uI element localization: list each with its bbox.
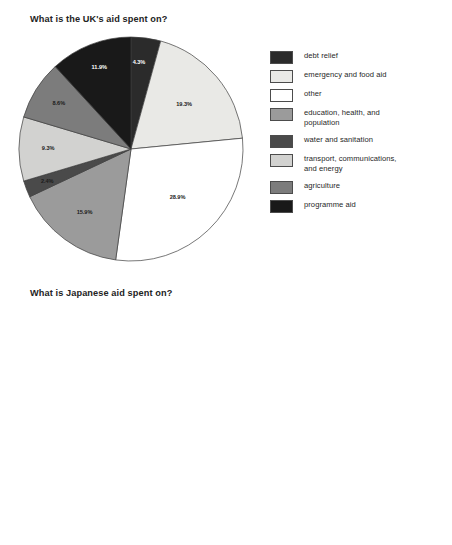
- legend-row[interactable]: other: [270, 88, 450, 104]
- uk-pie-svg: 4.3%19.3%28.9%15.9%2.4%9.3%8.6%11.9%: [18, 36, 244, 262]
- legend-row[interactable]: transport, communications, and energy: [270, 153, 450, 177]
- legend-label-other: other: [304, 88, 322, 99]
- legend-swatch-agriculture: [270, 181, 293, 194]
- legend-label-emergency: emergency and food aid: [304, 69, 387, 80]
- legend-swatch-emergency: [270, 70, 293, 83]
- uk-chart-title: What is the UK's aid spent on?: [30, 14, 167, 24]
- uk-chart-block: What is the UK's aid spent on? 4.3%19.3%…: [0, 0, 452, 272]
- japan-chart-title: What is Japanese aid spent on?: [30, 288, 172, 298]
- legend-label-debt_relief: debt relief: [304, 50, 338, 61]
- legend-swatch-programme: [270, 200, 293, 213]
- legend-swatch-other: [270, 89, 293, 102]
- legend-swatch-debt_relief: [270, 51, 293, 64]
- legend-swatch-water: [270, 135, 293, 148]
- legend-label-education: education, health, and population: [304, 107, 380, 127]
- legend-label-programme: programme aid: [304, 199, 356, 210]
- pie-label-programme: 11.9%: [92, 64, 107, 70]
- legend-label-transport: transport, communications, and energy: [304, 153, 396, 173]
- legend-row[interactable]: programme aid: [270, 199, 450, 215]
- legend-row[interactable]: emergency and food aid: [270, 69, 450, 85]
- pie-label-education: 15.9%: [77, 209, 93, 215]
- pie-label-other: 28.9%: [170, 194, 186, 200]
- legend-swatch-education: [270, 108, 293, 121]
- legend-row[interactable]: debt relief: [270, 50, 450, 66]
- pie-label-emergency: 19.3%: [176, 101, 192, 107]
- pie-label-transport: 9.3%: [42, 145, 55, 151]
- legend-swatch-transport: [270, 154, 293, 167]
- pie-label-agriculture: 8.6%: [53, 100, 66, 106]
- japan-chart-block: What is Japanese aid spent on? 28.4%10.7…: [0, 272, 452, 545]
- pie-label-debt_relief: 4.3%: [133, 59, 146, 65]
- legend-label-agriculture: agriculture: [304, 180, 340, 191]
- legend-row[interactable]: education, health, and population: [270, 107, 450, 131]
- legend-row[interactable]: water and sanitation: [270, 134, 450, 150]
- uk-pie-chart: 4.3%19.3%28.9%15.9%2.4%9.3%8.6%11.9%: [18, 36, 244, 262]
- legend-label-water: water and sanitation: [304, 134, 373, 145]
- uk-legend: debt reliefemergency and food aidothered…: [270, 50, 450, 218]
- legend-row[interactable]: agriculture: [270, 180, 450, 196]
- pie-label-water: 2.4%: [41, 178, 54, 184]
